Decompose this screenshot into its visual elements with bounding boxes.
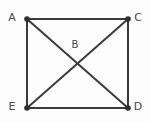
vertex-dot-a bbox=[24, 16, 30, 22]
vertex-label-e: E bbox=[9, 100, 16, 113]
vertex-dot-e bbox=[24, 105, 30, 111]
vertex-label-b: B bbox=[72, 39, 79, 50]
vertex-label-c: C bbox=[134, 11, 142, 24]
graph-canvas: A C E D B bbox=[0, 0, 151, 123]
vertex-label-a: A bbox=[8, 11, 16, 24]
graph-diagram-container: A C E D B bbox=[0, 0, 151, 123]
vertex-label-d: D bbox=[134, 100, 142, 113]
vertex-dot-d bbox=[125, 105, 131, 111]
vertex-dot-c bbox=[125, 16, 131, 22]
